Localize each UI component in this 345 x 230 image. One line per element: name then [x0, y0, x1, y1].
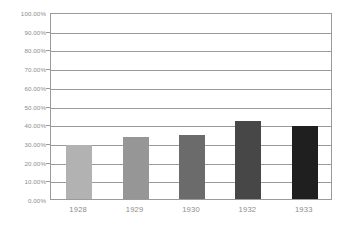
bars-group — [51, 14, 331, 199]
bar-slot — [51, 14, 107, 199]
x-axis: 19281929193019321933 — [50, 205, 332, 223]
x-axis-tick-label: 1930 — [163, 205, 219, 214]
bar-slot — [220, 14, 276, 199]
x-axis-tick-label: 1929 — [106, 205, 162, 214]
bar-slot — [164, 14, 220, 199]
bar-chart: 100.00%90.00%80.00%70.00%60.00%50.00%40.… — [0, 0, 345, 230]
bar-slot — [277, 14, 333, 199]
bar[interactable] — [66, 145, 92, 199]
x-axis-tick-label: 1933 — [276, 205, 332, 214]
bar-slot — [107, 14, 163, 199]
bar[interactable] — [179, 135, 205, 199]
plot-area — [50, 13, 332, 200]
bar[interactable] — [123, 137, 149, 199]
bar[interactable] — [235, 121, 261, 199]
x-axis-tick-label: 1928 — [50, 205, 106, 214]
x-axis-tick-label: 1932 — [219, 205, 275, 214]
bar[interactable] — [292, 126, 318, 199]
y-axis-tick-marks — [0, 13, 50, 200]
